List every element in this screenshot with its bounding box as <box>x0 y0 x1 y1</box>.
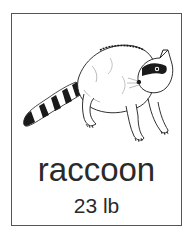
animal-weight: 23 lb <box>12 194 181 218</box>
animal-name: raccoon <box>12 152 181 188</box>
tail-icon <box>24 82 82 126</box>
raccoon-illustration <box>22 36 174 142</box>
animal-card: raccoon 23 lb <box>11 13 182 226</box>
